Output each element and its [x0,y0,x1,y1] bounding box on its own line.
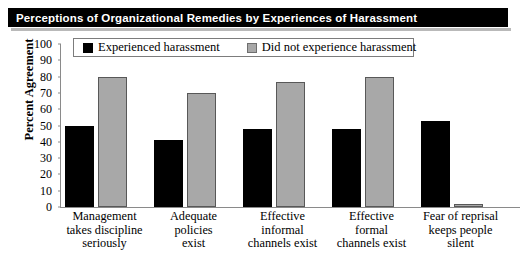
bar-experienced [243,129,272,207]
x-axis-label-line: Effective [238,210,327,224]
y-axis-tick-label: 40 [40,136,52,148]
y-axis-tick-label: 20 [40,168,52,180]
title-bar-shadow [11,28,511,31]
y-axis-tick-label: 50 [40,120,52,132]
bar-group [150,44,239,207]
plot-area [60,44,520,208]
bar-experienced [332,129,361,207]
bar-group [239,44,328,207]
x-axis-label-line: takes discipline [60,224,149,238]
x-axis-label: Managementtakes disciplineseriously [60,210,149,251]
x-axis-label-line: Adequate [149,210,238,224]
bar-not-experienced [365,77,394,207]
page-title: Perceptions of Organizational Remedies b… [9,12,417,24]
bar-not-experienced [276,82,305,208]
chart-figure: Perceptions of Organizational Remedies b… [0,0,527,257]
x-axis-label-line: formal [327,224,416,238]
y-axis-tick-label: 80 [40,71,52,83]
bar-not-experienced [187,93,216,207]
x-axis-label-line: channels exist [327,237,416,251]
bar-series-container [61,44,520,207]
y-axis-tick-label: 10 [40,185,52,197]
y-axis-ticks: 1009080706050403020100 [0,44,58,207]
x-axis-label-line: keeps people [416,224,505,238]
x-axis-label-line: seriously [60,237,149,251]
x-axis-label: Fear of reprisalkeeps peoplesilent [416,210,505,251]
x-axis-label-line: Effective [327,210,416,224]
x-axis-label-line: Fear of reprisal [416,210,505,224]
x-axis-labels: Managementtakes disciplineseriouslyAdequ… [60,210,519,257]
y-axis-tick-label: 30 [40,152,52,164]
bar-not-experienced [98,77,127,207]
y-axis-tick-label: 70 [40,87,52,99]
bar-experienced [65,126,94,208]
y-axis-tick-label: 0 [46,201,52,213]
x-axis-label: Effectiveformalchannels exist [327,210,416,251]
x-axis-label: Adequatepoliciesexist [149,210,238,251]
x-axis-label-line: Management [60,210,149,224]
y-axis-tick-label: 60 [40,103,52,115]
x-axis-label-line: policies [149,224,238,238]
x-axis-label-line: channels exist [238,237,327,251]
chart-title-bar: Perceptions of Organizational Remedies b… [8,8,508,27]
x-axis-label-line: exist [149,237,238,251]
x-axis-label-line: informal [238,224,327,238]
y-axis-tick-label: 90 [40,54,52,66]
bar-experienced [154,140,183,207]
bar-group [328,44,417,207]
bar-not-experienced [454,204,483,207]
bar-group [417,44,506,207]
bar-group [61,44,150,207]
x-axis-label-line: silent [416,237,505,251]
bar-experienced [421,121,450,207]
x-axis-label: Effectiveinformalchannels exist [238,210,327,251]
y-axis-tick-label: 100 [34,38,52,50]
